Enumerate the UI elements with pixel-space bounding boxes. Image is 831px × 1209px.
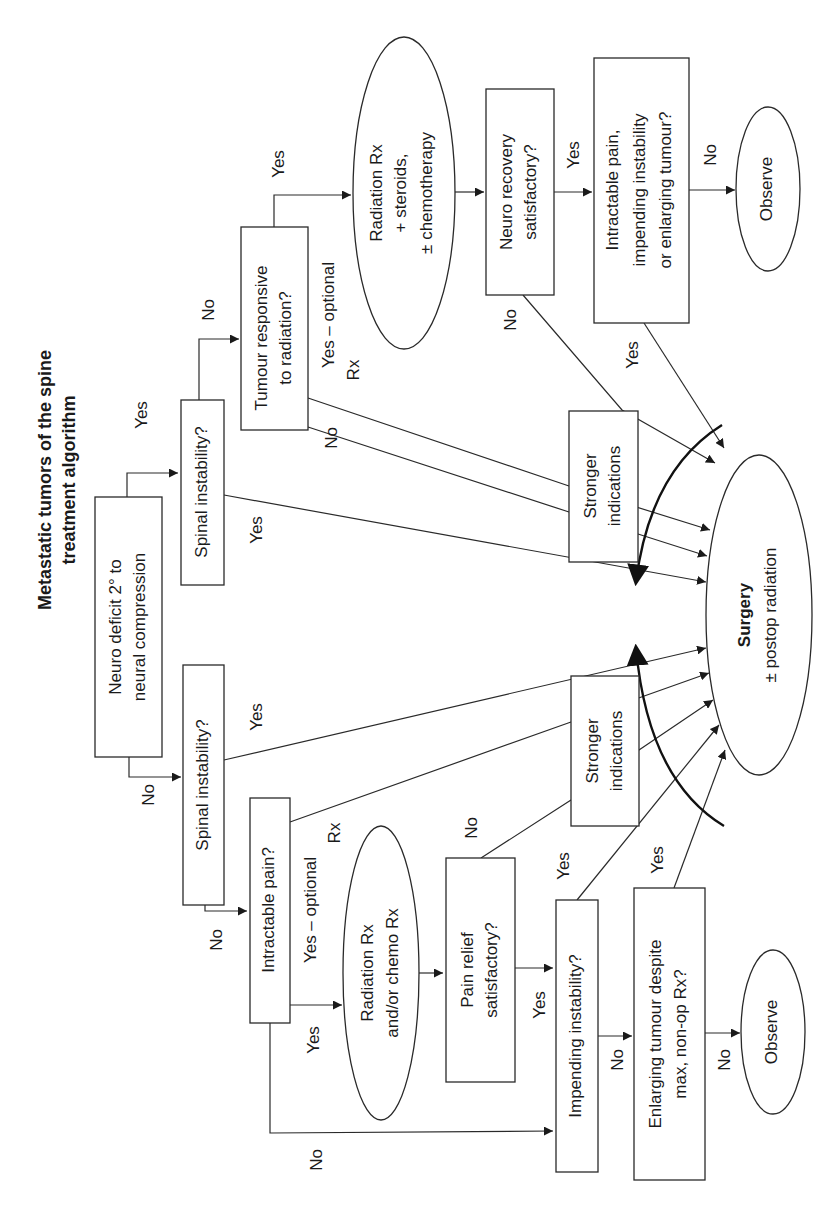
edge-label: Yes (623, 341, 642, 369)
node-text: ± chemotherapy (417, 132, 436, 254)
edge-label: Yes (530, 991, 549, 1019)
node-text: or enlarging tumour? (656, 112, 675, 269)
edge-neuro-no (129, 757, 181, 777)
node-observe-bottom: Observe (741, 950, 805, 1114)
edge-intractable-optional (290, 673, 709, 822)
edge-label: Yes (304, 1026, 323, 1054)
node-text: impending instability (630, 113, 649, 267)
node-neuro-deficit: Neuro deficit 2° to neural compression (95, 497, 162, 757)
edge-label: No (207, 929, 226, 951)
edge-spinal-top-no (199, 339, 239, 400)
edge-label: Yes (132, 401, 151, 429)
edge-label: No (139, 784, 158, 806)
edge-label: No (608, 1049, 627, 1071)
flowchart-svg: Metastatic tumors of the spine treatment… (0, 0, 831, 1209)
node-tumour-responsive: Tumour responsive to radiation? (241, 227, 308, 430)
edge-label: Rx (325, 822, 344, 843)
edge-label: Yes (269, 150, 288, 178)
node-text: and/or chemo Rx (383, 908, 402, 1038)
node-text: + steroids, (391, 154, 410, 233)
node-text: Neuro recovery (497, 133, 516, 250)
node-text: satisfactory? (521, 144, 540, 239)
node-text: to radiation? (276, 291, 295, 385)
edge-label: Yes (648, 846, 667, 874)
node-spinal-instability-top: Spinal instability? (181, 400, 224, 585)
node-text: indications (607, 711, 626, 791)
node-text: Spinal instability? (193, 719, 212, 850)
node-text: ± postop radiation (761, 547, 780, 682)
node-text: Radiation Rx (367, 144, 386, 242)
edge-tumour-yes (274, 195, 351, 227)
node-stronger-indications-bottom: Stronger indications (571, 676, 639, 826)
edge-label: Yes (247, 703, 266, 731)
edge-tumour-no (308, 427, 707, 556)
edge-label: No (701, 144, 720, 166)
node-radiation-chemo: Radiation Rx and/or chemo Rx (343, 826, 419, 1120)
edge-label: No (307, 1149, 326, 1171)
node-intractable-impending-enlarging: Intractable pain, impending instability … (594, 58, 689, 323)
edge-neuro-yes (127, 473, 178, 497)
node-text: Observe (762, 1000, 781, 1064)
edge-label: No (322, 427, 341, 449)
edge-label: Yes – optional (301, 857, 320, 963)
node-text: Radiation Rx (358, 924, 377, 1022)
edge-label: Yes – optional (319, 262, 338, 368)
edge-label: No (199, 299, 218, 321)
edge-label: No (462, 817, 481, 839)
node-text: Spinal instability? (192, 426, 211, 557)
node-observe-top: Observe (736, 107, 800, 271)
diagram-title: Metastatic tumors of the spine treatment… (35, 350, 79, 610)
node-neuro-recovery: Neuro recovery satisfactory? (486, 89, 554, 295)
edge-label: No (715, 1049, 734, 1071)
node-text: Intractable pain? (259, 847, 278, 973)
node-text: Pain relief (458, 932, 477, 1008)
node-text: Surgery (735, 582, 754, 647)
node-stronger-indications-top: Stronger indications (569, 411, 638, 562)
node-intractable-pain: Intractable pain? (250, 798, 290, 1023)
edge-tumour-optional (308, 398, 710, 530)
node-text: neural compression (130, 553, 149, 701)
edge-label: Yes (554, 852, 573, 880)
node-text: Neuro deficit 2° to (106, 559, 125, 694)
node-text: Observe (757, 157, 776, 221)
title-line-2: treatment algorithm (59, 395, 79, 564)
node-enlarging-tumour: Enlarging tumour despite max, non-op Rx? (634, 888, 705, 1180)
edge-spinal-bottom-no (205, 905, 247, 911)
node-surgery: Surgery ± postop radiation (706, 455, 812, 775)
edge-label: Yes (564, 141, 583, 169)
node-text: Stronger (583, 718, 602, 784)
edge-label: Rx (344, 359, 363, 380)
node-text: Impending instability? (566, 954, 585, 1117)
edge-label: Yes (247, 516, 266, 544)
node-text: satisfactory? (482, 922, 501, 1017)
node-impending-instability: Impending instability? (556, 900, 598, 1172)
node-pain-relief: Pain relief satisfactory? (446, 858, 515, 1082)
edge-label: No (501, 309, 520, 331)
node-radiation-steroids: Radiation Rx + steroids, ± chemotherapy (353, 37, 455, 349)
node-text: Stronger (581, 453, 600, 519)
node-text: max, non-op Rx? (671, 969, 690, 1098)
node-spinal-instability-bottom: Spinal instability? (183, 665, 224, 905)
flowchart-canvas: Metastatic tumors of the spine treatment… (0, 0, 831, 1209)
node-text: Enlarging tumour despite (646, 939, 665, 1128)
title-line-1: Metastatic tumors of the spine (35, 350, 55, 610)
node-text: Tumour responsive (252, 266, 271, 411)
node-text: Intractable pain, (603, 130, 622, 251)
node-text: indications (605, 446, 624, 526)
